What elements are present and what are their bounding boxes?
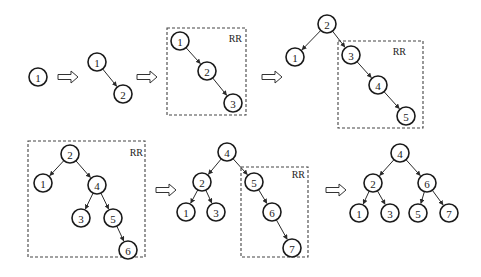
- edge-arrow: [432, 190, 443, 205]
- edge-arrow: [117, 226, 124, 241]
- edge-arrow: [302, 30, 321, 49]
- tree-node-1: 1: [350, 204, 368, 222]
- edge-arrow: [206, 190, 212, 203]
- tree-node-5: 5: [397, 107, 415, 125]
- tree-node-1: 1: [34, 174, 52, 192]
- edge-arrow: [384, 92, 399, 109]
- edge-arrow: [363, 191, 369, 204]
- node-label: 2: [120, 89, 126, 101]
- node-label: 7: [446, 208, 452, 220]
- rotation-label: RR: [229, 33, 243, 44]
- tree-node-2: 2: [198, 62, 216, 80]
- node-label: 2: [204, 66, 210, 78]
- avl-diagram: RRRRRRRR 1121232134521435642513674261357: [0, 0, 481, 277]
- tree-node-3: 3: [207, 203, 225, 221]
- node-label: 6: [125, 245, 131, 257]
- node-label: 1: [356, 208, 362, 220]
- edge-arrow: [276, 220, 287, 239]
- node-label: 3: [348, 50, 354, 62]
- rotation-label: RR: [130, 147, 144, 158]
- node-label: 1: [35, 72, 41, 84]
- node-label: 4: [94, 180, 100, 192]
- tree-node-5: 5: [104, 209, 122, 227]
- tree-node-5: 5: [245, 173, 263, 191]
- tree-node-6: 6: [418, 174, 436, 192]
- tree-node-1: 1: [177, 203, 195, 221]
- tree-node-4: 4: [218, 143, 236, 161]
- tree-node-6: 6: [263, 203, 281, 221]
- node-label: 1: [94, 57, 100, 69]
- transition-arrow-icon: [326, 184, 346, 196]
- node-label: 1: [40, 178, 46, 190]
- node-label: 3: [78, 213, 84, 225]
- tree-node-1: 1: [286, 48, 304, 66]
- tree-node-6: 6: [119, 241, 137, 259]
- tree-node-2: 2: [364, 174, 382, 192]
- node-label: 2: [370, 178, 376, 190]
- transition-arrow-icon: [156, 184, 176, 196]
- tree-node-3: 3: [342, 46, 360, 64]
- edge-arrow: [357, 62, 371, 78]
- tree-node-1: 1: [29, 68, 47, 86]
- tree-node-5: 5: [409, 204, 427, 222]
- node-label: 3: [387, 208, 393, 220]
- tree-node-7: 7: [440, 204, 458, 222]
- tree-node-1: 1: [88, 53, 106, 71]
- tree-node-3: 3: [72, 209, 90, 227]
- node-label: 6: [424, 178, 430, 190]
- rotation-box: [28, 141, 145, 257]
- edge-arrow: [101, 193, 109, 209]
- tree-node-2: 2: [114, 85, 132, 103]
- edge-arrow: [259, 190, 267, 204]
- node-label: 1: [292, 52, 298, 64]
- transition-arrow-icon: [137, 71, 157, 83]
- transition-arrow-icon: [58, 71, 78, 83]
- node-label: 5: [251, 177, 257, 189]
- tree-node-4: 4: [88, 176, 106, 194]
- node-label: 6: [269, 207, 275, 219]
- edge-arrow: [421, 192, 425, 204]
- edge-arrow: [76, 161, 91, 178]
- edge-arrow: [103, 69, 117, 86]
- node-label: 5: [415, 208, 421, 220]
- edge-arrow: [380, 160, 394, 176]
- edge-arrow: [50, 161, 64, 176]
- tree-node-2: 2: [318, 15, 336, 33]
- node-label: 1: [183, 207, 189, 219]
- node-label: 3: [213, 207, 219, 219]
- edge-arrow: [377, 191, 385, 204]
- edge-arrow: [233, 159, 247, 175]
- node-label: 4: [375, 80, 381, 92]
- node-label: 2: [324, 19, 330, 31]
- tree-node-1: 1: [171, 32, 189, 50]
- edge-arrow: [208, 159, 221, 174]
- edge-arrow: [406, 160, 420, 176]
- tree-node-3: 3: [224, 94, 242, 112]
- edge-arrow: [186, 48, 200, 64]
- edge-arrow: [213, 78, 227, 95]
- node-label: 2: [199, 177, 205, 189]
- rotation-label: RR: [292, 169, 306, 180]
- edge-arrow: [191, 190, 198, 203]
- transition-arrow-icon: [262, 71, 282, 83]
- tree-node-4: 4: [369, 76, 387, 94]
- tree-node-2: 2: [61, 145, 79, 163]
- node-label: 5: [403, 111, 409, 123]
- tree-node-4: 4: [391, 144, 409, 162]
- node-label: 3: [230, 98, 236, 110]
- tree-node-7: 7: [283, 239, 301, 257]
- node-label: 2: [67, 149, 73, 161]
- node-label: 1: [177, 36, 183, 48]
- edge-arrow: [85, 193, 93, 209]
- tree-node-3: 3: [381, 204, 399, 222]
- edge-arrow: [333, 31, 345, 47]
- tree-node-2: 2: [193, 173, 211, 191]
- node-label: 7: [289, 243, 295, 255]
- node-label: 4: [224, 147, 230, 159]
- node-label: 4: [397, 148, 403, 160]
- node-label: 5: [110, 213, 116, 225]
- rotation-label: RR: [393, 46, 407, 57]
